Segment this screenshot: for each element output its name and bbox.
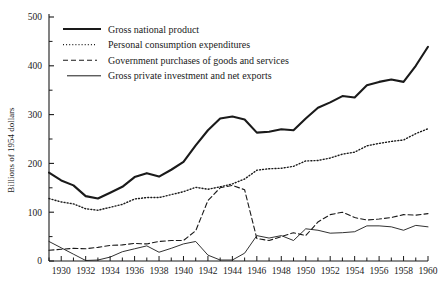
x-axis-tick-label: 1932: [76, 266, 95, 276]
line-chart: 0100200300400500 19301932193419361938194…: [0, 0, 446, 291]
series-line: [49, 129, 428, 211]
x-axis-tick-label: 1938: [150, 266, 169, 276]
x-axis-tick-label: 1958: [394, 266, 413, 276]
x-axis-tick-label: 1960: [419, 266, 438, 276]
chart-figure: 0100200300400500 19301932193419361938194…: [0, 0, 446, 291]
y-axis-tick-label: 500: [28, 12, 43, 22]
y-axis-label: Billions of 1954 dollars: [6, 107, 16, 193]
chart-legend: Gross national productPersonal consumpti…: [63, 24, 289, 82]
legend-item-label: Personal consumption expenditures: [108, 39, 250, 50]
x-axis-tick-label: 1936: [125, 266, 144, 276]
y-axis-tick-label: 100: [28, 208, 43, 218]
x-axis-tick-label: 1950: [296, 266, 315, 276]
x-axis-tick-label: 1956: [370, 266, 389, 276]
legend-item-label: Gross private investment and net exports: [108, 70, 272, 81]
series-line: [49, 225, 428, 260]
legend-item-label: Gross national product: [108, 24, 199, 35]
y-axis-tick-label: 0: [37, 256, 42, 266]
legend-item-label: Government purchases of goods and servic…: [108, 55, 289, 66]
y-axis-tick-label: 400: [28, 61, 43, 71]
y-axis: 0100200300400500: [28, 12, 54, 266]
x-axis-tick-label: 1940: [174, 266, 193, 276]
x-axis: 1930193219341936193819401942194419461948…: [49, 256, 438, 276]
y-axis-tick-label: 300: [28, 110, 43, 120]
x-axis-tick-label: 1930: [52, 266, 71, 276]
x-axis-tick-label: 1954: [345, 266, 364, 276]
x-axis-tick-label: 1942: [198, 266, 217, 276]
x-axis-tick-label: 1946: [247, 266, 266, 276]
y-axis-tick-label: 200: [28, 159, 43, 169]
x-axis-tick-label: 1952: [321, 266, 340, 276]
x-axis-tick-label: 1944: [223, 266, 242, 276]
x-axis-tick-label: 1934: [101, 266, 120, 276]
x-axis-tick-label: 1948: [272, 266, 291, 276]
